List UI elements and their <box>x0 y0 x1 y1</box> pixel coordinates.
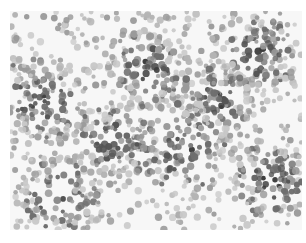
micrograph-image <box>10 11 302 230</box>
image-frame <box>0 0 306 243</box>
particle-field <box>10 11 302 230</box>
